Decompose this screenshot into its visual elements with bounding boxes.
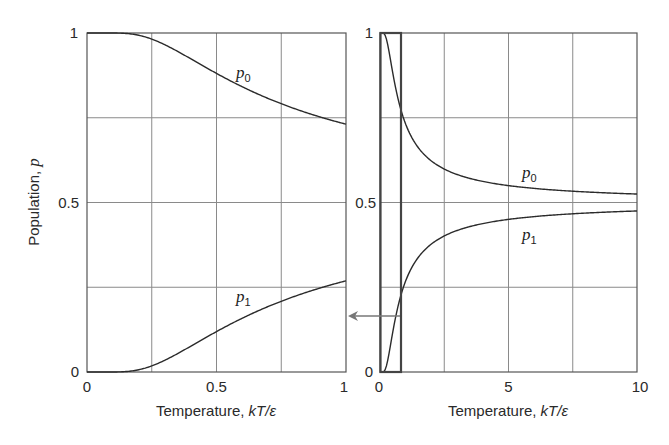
- y-tick-0-5: 0.5: [58, 194, 79, 211]
- right-x-tick-10: 10: [632, 378, 649, 395]
- left-x-tick-1: 1: [340, 378, 348, 395]
- left-label-p0: p0: [235, 63, 251, 84]
- right-y-tick-0: 0: [365, 363, 373, 380]
- left-grid: [87, 33, 346, 372]
- right-y-tick-1: 1: [365, 24, 373, 41]
- right-grid: [380, 33, 637, 372]
- right-label-p0: p0: [521, 163, 537, 184]
- y-tick-1: 1: [70, 24, 78, 41]
- right-y-tick-0-5: 0.5: [355, 194, 376, 211]
- left-x-tick-0: 0: [83, 378, 91, 395]
- figure: 1 0.5 0 0 0.5 1 p0 p1 Temperature, kT/ε …: [0, 0, 669, 445]
- y-axis-label: Population, p: [24, 158, 43, 246]
- right-x-axis-label: Temperature, kT/ε: [448, 402, 568, 419]
- right-x-tick-0: 0: [375, 378, 383, 395]
- zoom-arrow: [348, 311, 400, 321]
- right-label-p1: p1: [521, 225, 537, 246]
- y-tick-0: 0: [71, 363, 79, 380]
- left-label-p1: p1: [235, 287, 251, 308]
- left-panel: 1 0.5 0 0 0.5 1 p0 p1 Temperature, kT/ε: [58, 24, 348, 419]
- left-x-axis-label: Temperature, kT/ε: [156, 402, 276, 419]
- right-x-tick-5: 5: [504, 378, 512, 395]
- left-x-tick-0-5: 0.5: [206, 378, 227, 395]
- right-panel: 1 0.5 0 0 5 10 p0 p1 Temperature, kT/ε: [355, 24, 648, 419]
